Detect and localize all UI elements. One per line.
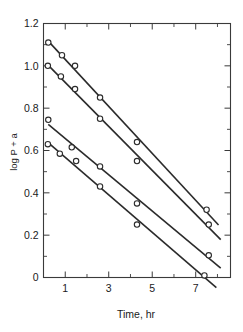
x-axis-tick-labels: 1357	[62, 282, 198, 294]
x-tick-label: 1	[62, 282, 68, 294]
data-point-marker	[97, 184, 102, 189]
y-tick-label: 0	[33, 271, 39, 283]
data-point-marker	[206, 253, 211, 258]
data-point-marker	[69, 145, 74, 150]
trend-line	[48, 142, 217, 287]
data-point-marker	[72, 86, 77, 91]
y-tick-label: 1.2	[24, 17, 39, 29]
y-tick-label: 0.2	[24, 229, 39, 241]
data-point-marker	[46, 117, 51, 122]
y-axis-title: log P + a	[8, 132, 19, 170]
data-point-marker	[72, 63, 77, 68]
y-axis-tick-labels: 00.20.40.60.81.01.2	[24, 17, 39, 283]
data-point-marker	[97, 164, 102, 169]
y-tick-label: 1.0	[24, 60, 39, 72]
x-tick-label: 7	[193, 282, 199, 294]
series-layer	[45, 40, 221, 288]
data-point-marker	[204, 207, 209, 212]
data-point-marker	[97, 95, 102, 100]
data-point-marker	[57, 151, 62, 156]
data-series	[45, 141, 216, 287]
data-point-marker	[134, 222, 139, 227]
data-point-marker	[206, 222, 211, 227]
x-axis-title: Time, hr	[117, 308, 156, 320]
chart-svg: 1357 00.20.40.60.81.01.2 Time, hr log P …	[0, 0, 243, 332]
data-point-marker	[45, 141, 50, 146]
y-tick-label: 0.4	[24, 187, 39, 199]
data-point-marker	[134, 158, 139, 163]
chart-figure: 1357 00.20.40.60.81.01.2 Time, hr log P …	[0, 0, 243, 332]
data-point-marker	[59, 53, 64, 58]
data-point-marker	[134, 139, 139, 144]
data-series	[46, 117, 221, 268]
data-point-marker	[46, 40, 51, 45]
y-tick-label: 0.6	[24, 144, 39, 156]
x-tick-label: 3	[106, 282, 112, 294]
data-point-marker	[58, 74, 63, 79]
data-point-marker	[73, 158, 78, 163]
data-point-marker	[134, 201, 139, 206]
data-series	[45, 63, 221, 240]
x-tick-label: 5	[149, 282, 155, 294]
x-axis-ticks	[65, 24, 217, 278]
y-tick-label: 0.8	[24, 102, 39, 114]
data-point-marker	[202, 273, 207, 278]
data-series	[46, 40, 219, 225]
data-point-marker	[97, 116, 102, 121]
data-point-marker	[45, 63, 50, 68]
